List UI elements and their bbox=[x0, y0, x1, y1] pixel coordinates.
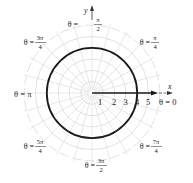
grid-ray bbox=[31, 95, 90, 129]
grid-ray bbox=[94, 32, 128, 91]
y-axis-arrowhead bbox=[90, 5, 94, 11]
svg-text:4: 4 bbox=[154, 147, 158, 154]
grid-ray bbox=[95, 58, 154, 92]
svg-text:2: 2 bbox=[96, 25, 99, 32]
svg-text:4: 4 bbox=[153, 43, 157, 50]
angle-label-theta-5pi-4: θ = 5π 4 bbox=[24, 138, 46, 154]
tick-1: 1 bbox=[98, 97, 102, 107]
grid-ray bbox=[57, 96, 91, 155]
tick-2: 2 bbox=[112, 97, 116, 107]
svg-text:7π: 7π bbox=[153, 138, 160, 145]
grid-ray bbox=[42, 95, 90, 143]
grid-ray bbox=[57, 32, 91, 91]
svg-text:4: 4 bbox=[38, 147, 42, 154]
svg-text:θ =: θ = bbox=[68, 20, 79, 29]
svg-text:3π: 3π bbox=[37, 34, 44, 41]
svg-text:θ =: θ = bbox=[85, 161, 96, 170]
tick-5: 5 bbox=[146, 97, 150, 107]
y-axis-label: y bbox=[83, 6, 88, 15]
grid-ray bbox=[23, 75, 89, 93]
svg-text:5π: 5π bbox=[37, 138, 44, 145]
svg-text:4: 4 bbox=[38, 43, 42, 50]
polar-graph: x y 1 2 3 4 5 θ = 0 θ = π θ = π 2 θ = π … bbox=[0, 0, 193, 183]
tick-3: 3 bbox=[123, 97, 127, 107]
svg-text:θ = π: θ = π bbox=[14, 89, 32, 99]
svg-text:θ =: θ = bbox=[24, 142, 35, 151]
grid-ray bbox=[95, 75, 161, 93]
grid-ray bbox=[93, 24, 111, 90]
grid-ray bbox=[74, 24, 92, 90]
svg-text:θ = 0: θ = 0 bbox=[159, 97, 176, 107]
svg-text:θ =: θ = bbox=[140, 38, 151, 47]
x-axis-label: x bbox=[167, 82, 172, 91]
angle-label-theta-7pi-4: θ = 7π 4 bbox=[140, 138, 162, 154]
angle-label-theta-pi: θ = π bbox=[14, 89, 32, 99]
svg-text:θ =: θ = bbox=[140, 142, 151, 151]
angle-label-theta-pi-2: θ = π 2 bbox=[68, 16, 102, 32]
radial-tick-labels: 1 2 3 4 5 bbox=[98, 97, 150, 107]
svg-text:π: π bbox=[153, 34, 157, 41]
svg-text:2: 2 bbox=[99, 166, 102, 173]
grid-ray bbox=[74, 96, 92, 162]
svg-text:3π: 3π bbox=[98, 157, 105, 164]
angle-label-theta-pi-4: θ = π 4 bbox=[140, 34, 159, 50]
grid-ray bbox=[42, 43, 90, 91]
grid-ray bbox=[23, 94, 89, 112]
svg-text:π: π bbox=[96, 16, 100, 23]
segment-arrowhead bbox=[151, 91, 158, 96]
angle-label-theta-3pi-2: θ = 3π 2 bbox=[85, 157, 107, 173]
grid-ray bbox=[95, 94, 161, 112]
grid-ray bbox=[94, 43, 142, 91]
grid-ray bbox=[31, 58, 90, 92]
angle-label-theta-0: θ = 0 bbox=[159, 97, 176, 107]
x-axis-arrowhead bbox=[167, 91, 173, 95]
svg-text:θ =: θ = bbox=[24, 38, 35, 47]
polar-graph-figure: x y 1 2 3 4 5 θ = 0 θ = π θ = π 2 θ = π … bbox=[0, 0, 193, 183]
angle-label-theta-3pi-4: θ = 3π 4 bbox=[24, 34, 46, 50]
